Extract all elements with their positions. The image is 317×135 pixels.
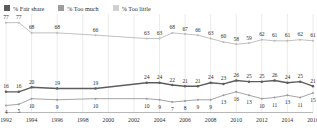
data-label: 61 <box>310 32 315 38</box>
data-point <box>18 22 20 24</box>
data-point <box>159 99 161 101</box>
data-point <box>222 94 224 96</box>
data-label: 68 <box>29 24 34 30</box>
data-point <box>159 38 161 40</box>
data-label: 16 <box>234 96 239 102</box>
data-point <box>286 94 288 96</box>
data-label: 77 <box>16 14 21 20</box>
legend-item-too-much: % Too much <box>58 2 98 14</box>
data-point <box>299 97 301 99</box>
data-label: 9 <box>158 104 161 110</box>
x-axis-tick-label: 2014 <box>282 116 294 124</box>
data-label: 15 <box>310 97 315 103</box>
data-label: 62 <box>259 31 264 37</box>
data-point <box>184 33 186 35</box>
data-point <box>235 43 237 45</box>
data-point <box>31 32 33 34</box>
data-label: 25 <box>298 73 303 79</box>
gridlines <box>6 14 313 112</box>
data-label: 68 <box>54 24 59 30</box>
data-point <box>184 85 187 88</box>
x-axis-tick-label: 1998 <box>77 116 89 124</box>
legend-swatch-icon <box>4 5 10 11</box>
x-axis-tick-label: 2006 <box>179 116 191 124</box>
data-label: 61 <box>285 32 290 38</box>
data-point <box>171 101 173 103</box>
x-axis-tick-label: 1992 <box>0 116 12 124</box>
data-label: 25 <box>246 73 251 79</box>
data-point <box>56 99 58 101</box>
x-axis-tick-label: 2008 <box>205 116 217 124</box>
data-point <box>5 22 7 24</box>
data-label: 22 <box>170 77 175 83</box>
x-axis-tick-label: 2004 <box>154 116 166 124</box>
data-label: 63 <box>157 30 162 36</box>
legend-label: % Too much <box>67 5 98 12</box>
data-label: 59 <box>246 35 251 41</box>
data-label: 13 <box>285 99 290 105</box>
data-point <box>145 82 148 85</box>
data-point <box>222 83 225 86</box>
data-point <box>146 98 148 100</box>
data-point <box>248 80 251 83</box>
data-label: 24 <box>285 74 290 80</box>
data-point <box>56 87 59 90</box>
data-point <box>184 100 186 102</box>
data-point <box>158 82 161 85</box>
data-label: 9 <box>197 104 200 110</box>
x-axis-tick-label: 1996 <box>51 116 63 124</box>
data-point <box>31 98 33 100</box>
data-point <box>222 41 224 43</box>
data-label: 10 <box>144 103 149 109</box>
data-label: 9 <box>209 104 212 110</box>
data-label: 19 <box>54 80 59 86</box>
x-axis-tick-label: 1994 <box>26 116 38 124</box>
data-label: 16 <box>16 83 21 89</box>
data-label: 24 <box>144 74 149 80</box>
legend-swatch-icon <box>113 5 119 11</box>
x-axis-tick-label: 2000 <box>103 116 115 124</box>
data-label: 63 <box>208 30 213 36</box>
data-label: 25 <box>259 73 264 79</box>
data-label: 63 <box>144 30 149 36</box>
data-point <box>197 34 199 36</box>
x-axis-tick-label: 2002 <box>128 116 140 124</box>
data-point <box>248 42 250 44</box>
data-label: 23 <box>221 75 226 81</box>
data-point <box>210 38 212 40</box>
data-point <box>248 94 250 96</box>
legend-item-too-little: % Too little <box>113 2 151 14</box>
data-label: 11 <box>298 102 303 108</box>
data-point <box>171 32 173 34</box>
data-label: 21 <box>195 78 200 84</box>
chart-container: % Fair share % Too much % Too little 777… <box>0 0 317 135</box>
data-label: 66 <box>195 27 200 33</box>
data-point <box>274 40 276 42</box>
data-point <box>286 40 288 42</box>
data-point <box>312 92 314 94</box>
data-point <box>261 39 263 41</box>
plot-area: 7777686866636368676663605859626161626116… <box>0 14 317 113</box>
data-point <box>18 103 20 105</box>
x-axis-tick-label: 2012 <box>256 116 268 124</box>
data-label: 10 <box>29 103 34 109</box>
data-label: 26 <box>234 72 239 78</box>
data-point <box>5 104 7 106</box>
data-label: 9 <box>56 104 59 110</box>
data-point <box>197 85 200 88</box>
data-point <box>94 87 97 90</box>
data-label: 26 <box>272 72 277 78</box>
x-axis-tick-label: 2010 <box>230 116 242 124</box>
legend-item-fair-share: % Fair share <box>4 2 44 14</box>
data-label: 13 <box>246 99 251 105</box>
data-point <box>312 40 314 42</box>
data-point <box>235 79 238 82</box>
legend-label: % Fair share <box>13 5 44 12</box>
data-label: 10 <box>93 103 98 109</box>
data-point <box>299 80 302 83</box>
data-point <box>197 99 199 101</box>
legend-swatch-icon <box>58 5 64 11</box>
data-label: 7 <box>171 106 174 112</box>
data-label: 21 <box>310 78 315 84</box>
data-point <box>299 39 301 41</box>
